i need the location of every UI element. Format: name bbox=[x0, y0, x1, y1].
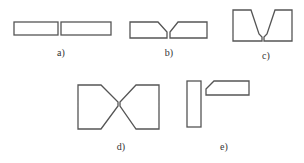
plate-vertical bbox=[187, 81, 201, 127]
joint-diagrams bbox=[0, 0, 304, 163]
label-a: a) bbox=[57, 47, 65, 58]
figure-e-t-joint bbox=[187, 81, 249, 127]
plate-right bbox=[120, 85, 159, 129]
label-e: e) bbox=[220, 141, 228, 152]
plate-left bbox=[78, 85, 118, 129]
figure-a-square-butt bbox=[14, 22, 111, 35]
plate-right bbox=[264, 10, 292, 41]
plate-horizontal bbox=[206, 81, 249, 95]
plate-right bbox=[170, 22, 207, 38]
plate-left bbox=[233, 10, 262, 41]
figure-c-u-groove bbox=[233, 10, 292, 41]
figure-b-v-groove bbox=[130, 22, 207, 38]
label-d: d) bbox=[117, 141, 125, 152]
plate-left bbox=[130, 22, 167, 38]
label-b: b) bbox=[165, 47, 173, 58]
plate-left bbox=[14, 22, 58, 35]
plate-right bbox=[61, 22, 111, 35]
label-c: c) bbox=[262, 50, 270, 61]
figure-d-x-groove bbox=[78, 85, 159, 129]
